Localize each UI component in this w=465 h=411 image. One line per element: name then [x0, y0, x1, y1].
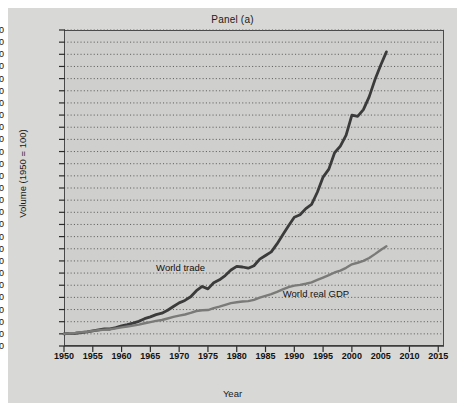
y-tick-label: 1,000: [0, 220, 4, 229]
x-tick-label: 1950: [54, 352, 74, 361]
page-title: Panel (a): [8, 14, 457, 25]
y-tick-label: 1,100: [0, 208, 4, 217]
plot-area: World tradeWorld real GDP: [64, 30, 444, 346]
y-tick-label: 600: [0, 269, 4, 278]
x-tick-label: 1985: [255, 352, 275, 361]
chart-figure: Panel (a) Volume (1950 = 100) Year 01002…: [0, 0, 465, 411]
y-axis-tick-labels: 01002003004005006007008009001,0001,1001,…: [0, 30, 4, 346]
y-tick-label: 2,500: [0, 38, 4, 47]
y-tick-label: 0: [0, 342, 4, 351]
x-axis-tick-labels: 1950195519601965197019751980198519901995…: [64, 352, 444, 370]
x-tick-label: 2000: [342, 352, 362, 361]
x-tick-label: 1980: [227, 352, 247, 361]
y-tick-label: 1,600: [0, 147, 4, 156]
y-tick-label: 700: [0, 256, 4, 265]
y-tick-label: 900: [0, 232, 4, 241]
y-tick-label: 2,400: [0, 50, 4, 59]
x-tick-label: 1975: [198, 352, 218, 361]
y-tick-label: 1,500: [0, 159, 4, 168]
y-tick-label: 1,800: [0, 123, 4, 132]
y-tick-label: 1,900: [0, 111, 4, 120]
x-tick-label: 2005: [371, 352, 391, 361]
chart-panel: Panel (a) Volume (1950 = 100) Year 01002…: [8, 8, 457, 403]
series-annotation: World trade: [156, 262, 205, 273]
y-tick-label: 500: [0, 281, 4, 290]
x-axis-label: Year: [8, 388, 457, 399]
y-tick-label: 800: [0, 244, 4, 253]
y-tick-label: 1,200: [0, 196, 4, 205]
y-tick-label: 200: [0, 317, 4, 326]
y-tick-label: 2,300: [0, 62, 4, 71]
y-tick-label: 2,600: [0, 26, 4, 35]
series-annotation: World real GDP: [283, 288, 349, 299]
y-tick-label: 1,300: [0, 184, 4, 193]
x-tick-label: 1970: [169, 352, 189, 361]
x-tick-label: 1995: [313, 352, 333, 361]
y-tick-label: 1,400: [0, 171, 4, 180]
x-tick-label: 1965: [140, 352, 160, 361]
x-tick-label: 2015: [428, 352, 448, 361]
y-tick-label: 300: [0, 305, 4, 314]
y-axis-label: Volume (1950 = 100): [17, 114, 28, 234]
data-series-layer: [64, 30, 444, 346]
y-tick-label: 100: [0, 329, 4, 338]
x-tick-label: 1955: [83, 352, 103, 361]
x-tick-label: 2010: [399, 352, 419, 361]
y-tick-label: 2,100: [0, 86, 4, 95]
y-tick-label: 2,200: [0, 74, 4, 83]
x-tick-label: 1990: [284, 352, 304, 361]
y-tick-label: 1,700: [0, 135, 4, 144]
y-tick-label: 400: [0, 293, 4, 302]
y-tick-label: 2,000: [0, 98, 4, 107]
x-tick-label: 1960: [112, 352, 132, 361]
